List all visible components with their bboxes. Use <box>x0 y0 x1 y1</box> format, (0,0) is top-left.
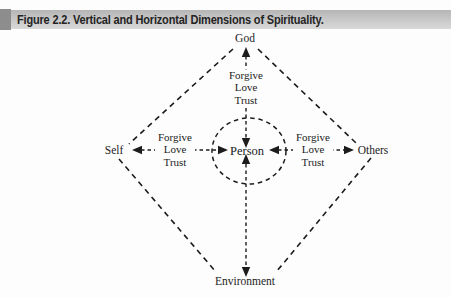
edge-god-self-line <box>129 49 233 144</box>
edge-self-environment-line <box>119 159 216 272</box>
arrowhead-to-others <box>344 146 354 154</box>
arrowhead-to-god <box>242 47 250 57</box>
edge-label-right-trust: Trust <box>296 156 330 168</box>
spirituality-diagram: God Self Others Environment Person Forgi… <box>0 0 451 298</box>
node-others-label: Others <box>358 144 389 157</box>
edge-label-top-forgive: Forgive <box>229 69 263 81</box>
figure-page: Figure 2.2. Vertical and Horizontal Dime… <box>0 0 451 298</box>
edge-label-left-trust: Trust <box>158 156 192 168</box>
arrowhead-into-person-right <box>269 146 279 154</box>
edge-others-environment-line <box>277 158 371 271</box>
edge-label-left-forgive: Forgive <box>158 131 192 143</box>
edge-label-top: Forgive Love Trust <box>226 69 266 106</box>
edge-label-right-love: Love <box>296 144 330 156</box>
edge-label-left: Forgive Love Trust <box>155 131 195 168</box>
node-environment-label: Environment <box>215 275 275 288</box>
edge-label-top-love: Love <box>229 82 263 94</box>
edge-label-right-forgive: Forgive <box>296 131 330 143</box>
edge-label-top-trust: Trust <box>229 94 263 106</box>
edge-label-right: Forgive Love Trust <box>293 131 333 168</box>
center-person-label: Person <box>230 145 264 158</box>
node-god-label: God <box>235 32 255 45</box>
arrowhead-into-person-left <box>218 146 228 154</box>
arrowhead-to-self <box>132 146 142 154</box>
node-self-label: Self <box>105 144 124 157</box>
edge-god-others-line <box>258 49 356 143</box>
edge-label-left-love: Love <box>158 144 192 156</box>
